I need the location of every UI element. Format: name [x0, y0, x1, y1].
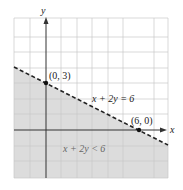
- point-6-0: [137, 128, 141, 132]
- x-axis-arrow-icon: [160, 128, 167, 133]
- inequality-graph: y x (0, 3) (6, 0) x + 2y = 6 x + 2y < 6: [0, 0, 183, 190]
- region-inequality-label: x + 2y < 6: [62, 143, 105, 154]
- point-a-label: (0, 3): [49, 70, 71, 82]
- x-axis-label: x: [169, 124, 175, 135]
- point-0-3: [44, 81, 48, 85]
- y-axis-label: y: [40, 5, 46, 16]
- line-equation-label: x + 2y = 6: [91, 93, 134, 104]
- point-b-label: (6, 0): [131, 115, 153, 127]
